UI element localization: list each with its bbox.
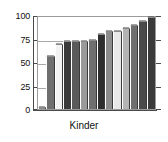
bar — [122, 28, 130, 109]
bar-top-shadow — [131, 24, 137, 26]
bar-top-shadow — [123, 27, 129, 29]
bar-top-shadow — [56, 43, 62, 45]
bar-top-shadow — [98, 33, 104, 35]
bar-top-shadow — [39, 106, 45, 108]
bar — [55, 44, 63, 109]
bar-top-shadow — [47, 55, 53, 57]
bar-top-shadow — [106, 30, 112, 32]
bar-top-shadow — [139, 20, 145, 22]
bar — [71, 41, 79, 109]
y-tick-label-100: 100 — [4, 11, 30, 21]
right-axis-ticks — [156, 16, 161, 110]
right-tick-100 — [156, 16, 161, 17]
right-tick-25 — [156, 87, 161, 88]
bar — [113, 31, 121, 109]
bar-top-shadow — [89, 39, 95, 41]
bar — [80, 41, 88, 109]
bar-top-shadow — [148, 16, 154, 18]
bar-top-shadow — [64, 40, 70, 42]
bar-top-shadow — [114, 30, 120, 32]
y-tick-label-25: 25 — [4, 82, 30, 92]
bar — [38, 107, 46, 109]
right-tick-50 — [156, 63, 161, 64]
bar — [63, 41, 71, 109]
bar — [130, 25, 138, 109]
bar — [105, 31, 113, 109]
bar-top-shadow — [81, 40, 87, 42]
y-tick-label-75: 75 — [4, 35, 30, 45]
plot-area — [37, 16, 156, 110]
bar — [147, 17, 155, 109]
bar — [46, 56, 54, 109]
y-tick-label-0: 0 — [4, 105, 30, 115]
bar-series — [38, 17, 155, 109]
x-axis-line — [33, 110, 157, 111]
bar-top-shadow — [72, 40, 78, 42]
bar — [88, 40, 96, 109]
bar-chart: 100 75 50 25 0 Kinder — [0, 0, 168, 142]
x-axis-label: Kinder — [0, 120, 168, 131]
right-tick-75 — [156, 40, 161, 41]
y-tick-label-50: 50 — [4, 58, 30, 68]
bar — [97, 34, 105, 109]
bar — [138, 21, 146, 109]
